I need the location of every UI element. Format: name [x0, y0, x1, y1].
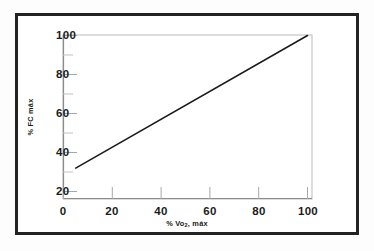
x-axis-title-main: % Vo: [166, 219, 184, 228]
x-tick-label: 100: [298, 205, 318, 217]
x-axis-title: % Vo2, máx: [166, 219, 208, 228]
x-tick-label: 0: [60, 205, 67, 217]
series-line-group: [76, 36, 308, 169]
x-tick-label: 60: [203, 205, 216, 217]
x-axis-title-subscript: 2: [185, 222, 188, 228]
plot-frame: [63, 35, 312, 199]
x-tick-label: 20: [105, 205, 118, 217]
plot-area-border: [63, 35, 312, 199]
x-tick-label: 40: [154, 205, 167, 217]
figure-container: 100 80 60 40 20 0 20 40 60 80 100 % Vo2,…: [0, 0, 374, 251]
series-line: [76, 36, 308, 169]
x-axis-title-tail: , máx: [188, 219, 208, 228]
x-major-ticks: [64, 187, 308, 199]
y-axis-title: % FC máx: [26, 99, 35, 136]
x-tick-label: 80: [252, 205, 265, 217]
